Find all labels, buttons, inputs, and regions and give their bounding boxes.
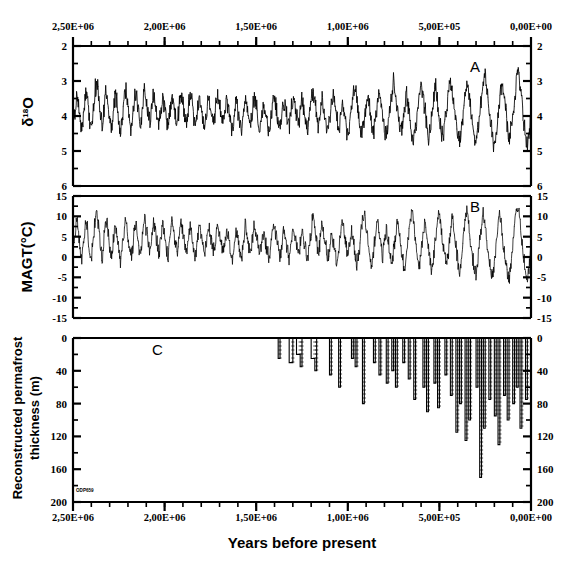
data-point-marker <box>349 133 350 134</box>
data-point-marker <box>162 93 163 94</box>
data-point-marker <box>514 226 515 227</box>
data-point-marker <box>488 252 489 253</box>
y-tick-label-right: 120 <box>537 430 554 442</box>
x-tick-label-bottom: 2,00E+06 <box>144 512 186 523</box>
data-point-marker <box>493 272 494 273</box>
data-point-marker <box>211 116 212 117</box>
data-point-marker <box>218 236 219 237</box>
data-point-marker <box>88 105 89 106</box>
data-point-marker <box>495 141 496 142</box>
data-point-marker <box>272 102 273 103</box>
data-point-marker <box>393 72 394 73</box>
data-point-marker <box>144 214 145 215</box>
data-point-marker <box>228 106 229 107</box>
data-point-marker <box>491 120 492 121</box>
data-point-marker <box>173 101 174 102</box>
data-point-marker <box>386 138 387 139</box>
data-point-marker <box>307 256 308 257</box>
data-point-marker <box>447 254 448 255</box>
data-point-marker <box>301 100 302 101</box>
data-point-marker <box>527 281 528 282</box>
data-point-marker <box>191 227 192 228</box>
data-point-marker <box>82 124 83 125</box>
data-point-marker <box>197 112 198 113</box>
data-point-marker <box>77 97 78 98</box>
data-point-marker <box>98 228 99 229</box>
data-point-marker <box>405 265 406 266</box>
data-point-marker <box>107 228 108 229</box>
data-point-marker <box>499 216 500 217</box>
data-point-marker <box>334 106 335 107</box>
x-tick-label-bottom: 2,50E+06 <box>52 512 94 523</box>
data-point-marker <box>149 112 150 113</box>
data-point-marker <box>289 133 290 134</box>
permafrost-label-line2: thickness (m) <box>27 376 42 460</box>
data-point-marker <box>185 244 186 245</box>
data-point-marker <box>142 107 143 108</box>
data-point-marker <box>166 119 167 120</box>
data-point-marker <box>496 239 497 240</box>
data-point-marker <box>383 245 384 246</box>
data-point-marker <box>370 120 371 121</box>
data-point-marker <box>137 111 138 112</box>
data-point-marker <box>147 227 148 228</box>
data-point-marker <box>140 249 141 250</box>
data-point-marker <box>251 113 252 114</box>
data-point-marker <box>340 114 341 115</box>
panel-b-y-axis-title: MAGT(°C) <box>18 222 35 293</box>
data-point-marker <box>440 129 441 130</box>
data-point-marker <box>217 225 218 226</box>
data-point-marker <box>450 90 451 91</box>
data-point-marker <box>416 244 417 245</box>
data-point-marker <box>412 210 413 211</box>
data-point-marker <box>102 250 103 251</box>
data-point-marker <box>444 119 445 120</box>
data-point-marker <box>364 113 365 114</box>
data-point-marker <box>493 142 494 143</box>
data-point-marker <box>358 250 359 251</box>
data-point-marker <box>234 242 235 243</box>
data-point-marker <box>367 230 368 231</box>
data-point-marker <box>375 237 376 238</box>
data-point-marker <box>472 255 473 256</box>
data-point-marker <box>99 231 100 232</box>
oxygen-symbol: O <box>19 97 36 109</box>
data-point-marker <box>334 248 335 249</box>
data-point-marker <box>425 227 426 228</box>
data-point-marker <box>190 221 191 222</box>
data-point-marker <box>397 219 398 220</box>
data-point-marker <box>95 96 96 97</box>
data-point-marker <box>312 214 313 215</box>
data-point-marker <box>345 116 346 117</box>
data-point-marker <box>201 105 202 106</box>
data-point-marker <box>309 107 310 108</box>
data-point-marker <box>467 87 468 88</box>
data-point-marker <box>112 253 113 254</box>
data-point-marker <box>370 259 371 260</box>
data-point-marker <box>343 223 344 224</box>
x-tick-label-top: 1,50E+06 <box>235 21 277 32</box>
data-point-marker <box>302 103 303 104</box>
data-point-marker <box>99 101 100 102</box>
data-point-marker <box>96 84 97 85</box>
data-point-marker <box>275 101 276 102</box>
data-point-marker <box>130 249 131 250</box>
data-point-marker <box>169 105 170 106</box>
data-point-marker <box>454 234 455 235</box>
data-point-marker <box>306 122 307 123</box>
data-point-marker <box>154 231 155 232</box>
data-point-marker <box>187 113 188 114</box>
data-point-marker <box>311 101 312 102</box>
data-point-marker <box>98 86 99 87</box>
data-point-marker <box>372 132 373 133</box>
data-point-marker <box>293 229 294 230</box>
data-point-marker <box>288 257 289 258</box>
data-point-marker <box>525 135 526 136</box>
y-tick-label-right: 40 <box>537 365 549 377</box>
data-point-marker <box>179 234 180 235</box>
site-label: ODP659 <box>76 488 94 493</box>
data-point-marker <box>361 126 362 127</box>
data-point-marker <box>269 255 270 256</box>
data-point-marker <box>354 95 355 96</box>
data-point-marker <box>528 132 529 133</box>
